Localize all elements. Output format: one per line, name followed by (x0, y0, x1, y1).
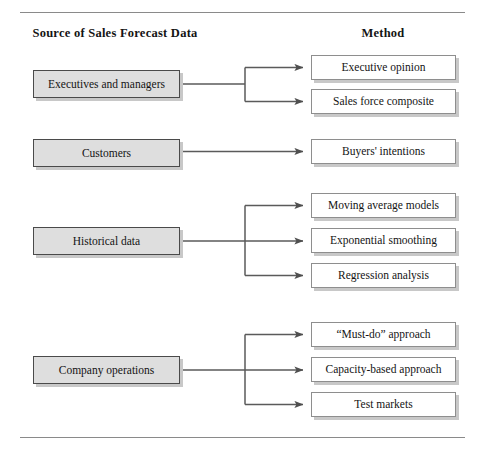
source-box-3[interactable]: Historical data (33, 227, 180, 255)
method-box-4[interactable]: Moving average models (311, 193, 456, 218)
method-box-7[interactable]: “Must-do” approach (311, 322, 456, 347)
source-box-1[interactable]: Executives and managers (33, 70, 180, 98)
method-box-2[interactable]: Sales force composite (311, 89, 456, 114)
method-box-6[interactable]: Regression analysis (311, 263, 456, 288)
method-box-3[interactable]: Buyers' intentions (311, 139, 456, 164)
method-box-1[interactable]: Executive opinion (311, 55, 456, 80)
method-box-9[interactable]: Test markets (311, 392, 456, 417)
method-box-5[interactable]: Exponential smoothing (311, 228, 456, 253)
source-box-2[interactable]: Customers (33, 139, 180, 167)
figure-canvas: Source of Sales Forecast Data Method (0, 0, 487, 460)
method-box-8[interactable]: Capacity-based approach (311, 357, 456, 382)
source-box-4[interactable]: Company operations (33, 356, 180, 384)
